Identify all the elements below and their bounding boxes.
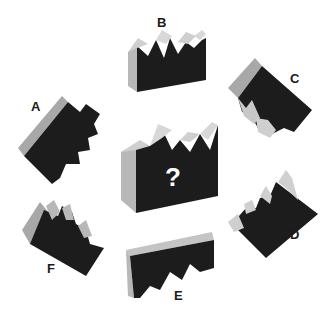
label-option-e[interactable]: E: [174, 288, 183, 303]
option-c-block: [228, 58, 312, 138]
option-e-block: [126, 232, 214, 298]
option-f-block: [22, 200, 104, 276]
label-option-f[interactable]: F: [47, 261, 55, 276]
label-option-c[interactable]: C: [290, 71, 299, 86]
question-mark: ?: [165, 162, 181, 193]
label-option-a[interactable]: A: [31, 99, 40, 114]
option-d-block: [228, 170, 318, 258]
puzzle-canvas: ? A B C D E F: [0, 0, 334, 320]
label-option-d[interactable]: D: [290, 227, 299, 242]
label-option-b[interactable]: B: [157, 15, 166, 30]
option-b-block: [128, 30, 206, 92]
